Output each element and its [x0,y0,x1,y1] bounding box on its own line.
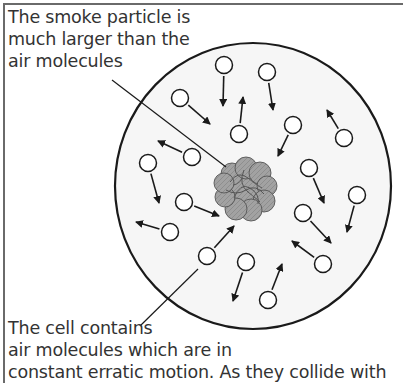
molecule-icon [199,248,216,265]
molecule-icon [259,64,276,81]
smoke-particle-label-line-3: air molecules [8,50,190,72]
molecule-icon [336,130,353,147]
motion-arrow-icon [223,76,224,106]
cell-label-line-3: constant erratic motion. As they collide… [8,361,386,383]
molecule-icon [238,254,255,271]
molecule-icon [162,224,179,241]
molecule-icon [315,256,332,273]
cell-label-line-1: The cell contains [8,317,386,339]
molecule-icon [216,57,233,74]
molecule-icon [285,117,302,134]
molecule-icon [231,126,248,143]
smoke-particle-label-line-2: much larger than the [8,28,190,50]
cell-label: The cell contains air molecules which ar… [8,317,386,383]
cell-label-line-2: air molecules which are in [8,339,386,361]
molecule-icon [176,194,193,211]
molecule-icon [260,292,277,309]
molecule-icon [184,149,201,166]
molecule-icon [349,187,366,204]
molecule-icon [140,155,157,172]
smoke-particle-label: The smoke particle is much larger than t… [8,6,190,72]
molecule-icon [172,90,189,107]
molecule-icon [295,205,312,222]
molecule-icon [301,160,318,177]
smoke-particle-label-line-1: The smoke particle is [8,6,190,28]
